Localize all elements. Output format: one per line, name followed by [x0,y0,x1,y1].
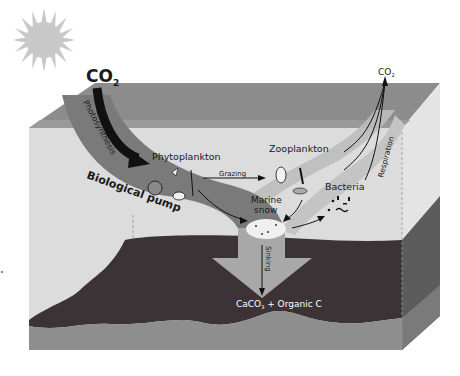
co2-input-label: CO2 [86,66,119,88]
grazing-label: Grazing [219,170,246,178]
stray-mark [1,271,3,273]
sun-icon [12,8,76,72]
marine-snow-icon [246,219,286,239]
co2-output-label: CO2 [378,67,395,78]
marine-snow-label-2: snow [254,205,277,215]
biological-pump-diagram: CO2 CO2 Photosynthesis Biological pump P… [0,0,460,376]
zooplankton-label: Zooplankton [269,143,329,154]
sinking-label: Sinking [264,246,272,272]
sediment-label: CaCO3 + Organic C [236,299,322,310]
marine-snow-label-1: Marine [251,195,282,205]
phytoplankton-label: Phytoplankton [152,151,220,162]
bacteria-label: Bacteria [325,181,365,192]
